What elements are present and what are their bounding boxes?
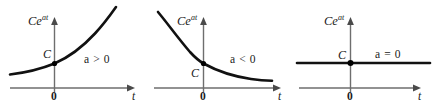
point-marker-c — [52, 61, 57, 66]
point-marker-c — [201, 61, 206, 66]
y-axis-label: Ceat — [28, 14, 48, 28]
point-marker-c — [348, 60, 354, 66]
exponential-decay-curve — [158, 12, 272, 81]
panel-decay: Ceat C 0 t a < 0 — [146, 0, 293, 112]
x-axis-label: t — [418, 91, 421, 103]
y-axis-arrowhead — [51, 17, 58, 25]
constant-label-c: C — [43, 48, 51, 60]
condition-label-decay: a < 0 — [230, 54, 256, 66]
x-axis-label: t — [132, 91, 135, 103]
y-axis-arrowhead — [347, 17, 354, 25]
constant-label-c: C — [191, 67, 199, 79]
x-axis-label: t — [278, 91, 281, 103]
y-axis-arrowhead — [200, 17, 207, 25]
origin-label: 0 — [347, 91, 353, 103]
panel-growth: Ceat C 0 t a > 0 — [0, 0, 146, 112]
exponential-solution-curves-figure: Ceat C 0 t a > 0 Ceat C 0 t a < 0 — [0, 0, 439, 112]
y-axis-label: Ceat — [177, 14, 197, 28]
panel-decay-plot — [146, 0, 293, 112]
panel-growth-plot — [0, 0, 146, 112]
origin-label: 0 — [51, 91, 57, 103]
origin-label: 0 — [200, 91, 206, 103]
constant-label-c: C — [338, 49, 346, 61]
condition-label-growth: a > 0 — [84, 54, 110, 66]
condition-label-constant: a = 0 — [375, 49, 401, 61]
panel-constant: Ceat C 0 t a = 0 — [293, 0, 439, 112]
y-axis-label: Ceat — [324, 14, 344, 28]
